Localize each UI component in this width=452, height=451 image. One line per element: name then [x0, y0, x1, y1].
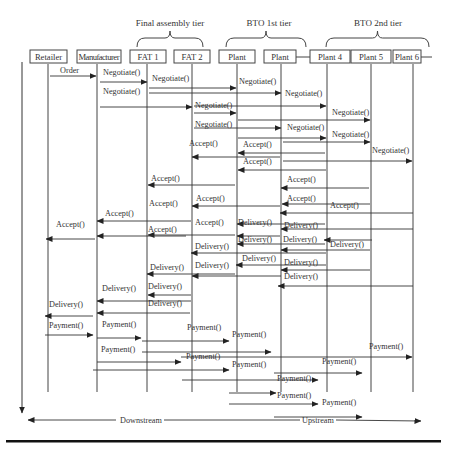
message-label: Delivery() [330, 240, 364, 249]
message-label: Payment() [232, 330, 266, 339]
actor-label: Plant 5 [359, 52, 383, 62]
message-label: Negotiate() [332, 130, 370, 139]
tier-1: BTO 1st tier [226, 18, 306, 47]
sequence-diagram: Final assembly tierBTO 1st tierBTO 2nd t… [0, 0, 452, 451]
message-label: Delivery() [102, 284, 136, 293]
message: Delivery() [148, 295, 191, 308]
message-label: Negotiate() [287, 123, 325, 132]
message: Payment() [97, 345, 181, 362]
message-label: Accept() [287, 194, 316, 203]
message-label: Negotiate() [239, 77, 277, 86]
message-label: Accept() [189, 139, 218, 148]
message-label: Delivery() [195, 261, 229, 270]
actor-box: FAT 2 [174, 50, 210, 63]
message: Accept() [192, 194, 280, 206]
message: Negotiate() [238, 123, 326, 138]
brace-icon [226, 31, 306, 47]
message-label: Delivery() [284, 258, 318, 267]
bottom-rule [6, 440, 441, 443]
message-label: Negotiate() [285, 89, 323, 98]
upstream-arrow [336, 420, 421, 421]
tier-label: BTO 1st tier [247, 18, 292, 28]
message-label: Payment() [277, 391, 311, 400]
message-label: Delivery() [284, 272, 318, 281]
message: Negotiate() [283, 146, 412, 161]
message: Negotiate() [194, 101, 236, 113]
message: Negotiate() [100, 68, 147, 82]
message: Delivery() [324, 240, 372, 249]
actor-label: FAT 1 [138, 52, 159, 62]
tier-label: BTO 2nd tier [354, 18, 402, 28]
tier-label: Final assembly tier [136, 18, 205, 28]
actor-label: Plant [271, 52, 289, 62]
actor-box: Plant 4 [310, 50, 350, 63]
message-label: Accept() [105, 209, 134, 218]
message-label: Accept() [287, 175, 316, 184]
message-label: Payment() [322, 357, 356, 366]
message: Delivery() [281, 221, 413, 230]
message: Order [50, 66, 96, 76]
message-label: Accept() [151, 174, 180, 183]
message-label: Payment() [49, 321, 83, 330]
message-label: Accept() [149, 199, 178, 208]
message-label: Delivery() [284, 221, 318, 230]
message-label: Accept() [243, 157, 272, 166]
actor-label: Plant 4 [318, 52, 343, 62]
message-label: Negotiate() [195, 120, 233, 129]
message-label: Payment() [102, 320, 136, 329]
actor-box: Plant 5 [351, 50, 391, 63]
message-label: Negotiate() [103, 87, 141, 96]
actor-label: Plant 6 [395, 52, 420, 62]
message-label: Delivery() [49, 300, 83, 309]
message: Payment() [97, 320, 141, 338]
message: Payment() [93, 352, 229, 370]
message-label: Delivery() [242, 254, 276, 263]
actor-box: Plant [264, 50, 296, 63]
message-label: Payment() [369, 342, 403, 351]
message-label: Accept() [195, 218, 224, 227]
message: Delivery() [45, 300, 93, 316]
message: Negotiate() [100, 87, 192, 107]
message-label: Payment() [101, 345, 135, 354]
message-label: Payment() [232, 360, 266, 369]
message-label: Payment() [186, 352, 220, 361]
actor-label: FAT 2 [182, 52, 203, 62]
message: Negotiate() [238, 108, 370, 120]
message-label: Delivery() [195, 242, 229, 251]
message-label: Accept() [243, 140, 272, 149]
message-label: Payment() [277, 374, 311, 383]
message: Delivery() [281, 258, 370, 270]
tier-2: BTO 2nd tier [326, 18, 429, 47]
message: Payment() [274, 357, 362, 373]
message-label: Delivery() [148, 299, 182, 308]
message-label: Delivery() [150, 263, 184, 272]
messages: OrderNegotiate()Negotiate()Negotiate()Ne… [45, 66, 413, 417]
message-label: Negotiate() [103, 68, 141, 77]
message: Accept() [97, 209, 191, 221]
upstream-label: Upstream [302, 416, 334, 425]
actor-box: Manufacturer [77, 50, 121, 63]
message: Accept() [97, 225, 186, 236]
message-label: Payment() [322, 398, 356, 407]
actor-box: Plant [219, 50, 255, 63]
actor-box: Retailer [30, 50, 67, 63]
actor-box: Plant 6 [393, 50, 421, 63]
message-label: Delivery() [238, 218, 272, 227]
actor-box: FAT 1 [130, 50, 166, 63]
message: Delivery() [278, 272, 413, 286]
message-label: Payment() [187, 323, 221, 332]
message: Accept() [281, 175, 369, 188]
message-label: Order [60, 66, 79, 75]
direction-legend: Downstream Upstream [28, 416, 421, 425]
message-label: Delivery() [283, 235, 317, 244]
message-label: Accept() [196, 194, 225, 203]
message-label: Negotiate() [195, 101, 233, 110]
tier-0: Final assembly tier [136, 18, 205, 47]
message: Accept() [46, 220, 95, 239]
message-label: Negotiate() [332, 108, 370, 117]
actor-label: Plant [228, 52, 246, 62]
actor-label: Manufacturer [79, 52, 120, 62]
downstream-label: Downstream [120, 416, 162, 425]
brace-icon [137, 31, 203, 47]
message: Delivery() [237, 218, 280, 236]
